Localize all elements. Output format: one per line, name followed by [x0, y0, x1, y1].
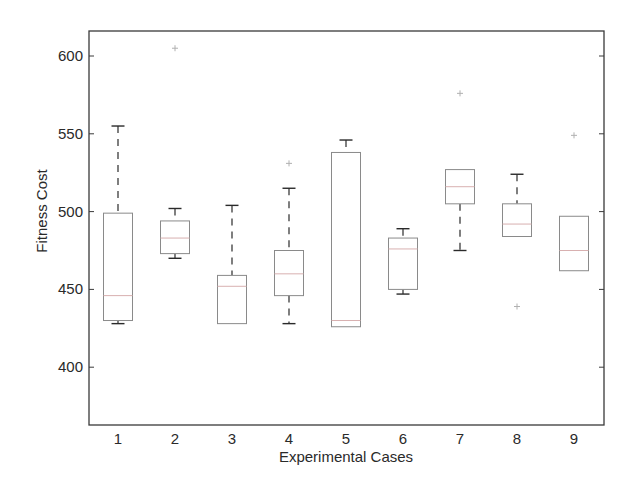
box-iqr	[332, 152, 361, 326]
x-tick-label: 5	[342, 430, 350, 447]
box-case-6	[389, 229, 418, 294]
x-tick-label: 9	[570, 430, 578, 447]
y-tick-label: 550	[58, 125, 83, 142]
box-iqr	[218, 275, 247, 323]
boxes-group	[104, 45, 589, 327]
x-tick-label: 3	[228, 430, 236, 447]
box-case-3	[218, 205, 247, 323]
y-tick-label: 500	[58, 203, 83, 220]
box-case-1	[104, 126, 133, 324]
box-case-5	[332, 140, 361, 327]
y-tick-label: 450	[58, 280, 83, 297]
box-iqr	[560, 216, 589, 270]
y-tick-label: 400	[58, 358, 83, 375]
box-case-8	[503, 174, 532, 309]
box-iqr	[104, 213, 133, 320]
y-axis-title: Fitness Cost	[33, 168, 50, 252]
x-tick-label: 4	[285, 430, 293, 447]
box-case-9	[560, 132, 589, 270]
x-tick-label: 1	[114, 430, 122, 447]
x-tick-label: 8	[513, 430, 521, 447]
box-iqr	[275, 251, 304, 296]
x-tick-label: 7	[456, 430, 464, 447]
box-iqr	[503, 204, 532, 237]
x-axis-title: Experimental Cases	[279, 448, 413, 465]
x-tick-label: 6	[399, 430, 407, 447]
x-tick-label: 2	[171, 430, 179, 447]
box-case-7	[446, 90, 475, 250]
box-iqr	[389, 238, 418, 289]
box-case-2	[161, 45, 190, 258]
y-tick-label: 600	[58, 47, 83, 64]
box-plot-chart: 400450500550600 123456789 Experimental C…	[0, 0, 634, 492]
box-iqr	[161, 221, 190, 254]
box-case-4	[275, 160, 304, 323]
x-axis: 123456789	[114, 430, 578, 447]
